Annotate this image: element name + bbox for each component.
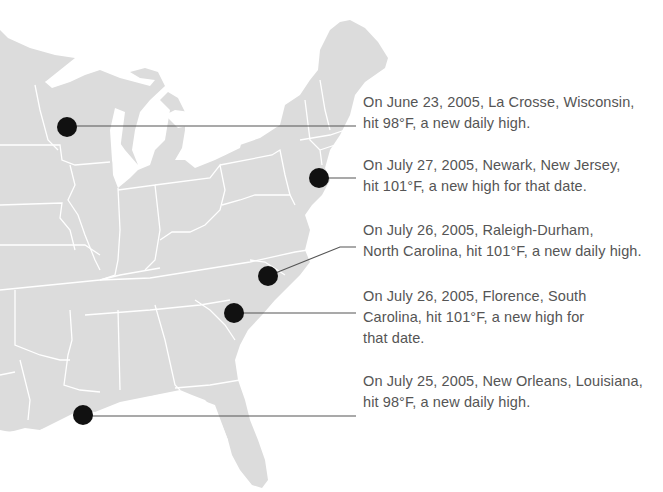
marker-lacrosse[interactable]	[57, 117, 77, 137]
callout-lacrosse: On June 23, 2005, La Crosse, Wisconsin, …	[363, 92, 634, 134]
callout-line: On July 25, 2005, New Orleans, Louisiana…	[363, 371, 643, 392]
callout-florence: On July 26, 2005, Florence, South Caroli…	[363, 286, 586, 349]
callout-neworleans: On July 25, 2005, New Orleans, Louisiana…	[363, 371, 643, 413]
callout-line: On July 27, 2005, Newark, New Jersey,	[363, 155, 620, 176]
callout-line: North Carolina, hit 101°F, a new daily h…	[363, 241, 642, 262]
callout-line: On July 26, 2005, Raleigh-Durham,	[363, 220, 642, 241]
marker-raleigh[interactable]	[258, 266, 278, 286]
callout-line: hit 98°F, a new daily high.	[363, 392, 643, 413]
callout-line: On June 23, 2005, La Crosse, Wisconsin,	[363, 92, 634, 113]
callout-line: that date.	[363, 328, 586, 349]
marker-florence[interactable]	[224, 303, 244, 323]
callout-line: hit 98°F, a new daily high.	[363, 113, 634, 134]
callout-line: On July 26, 2005, Florence, South	[363, 286, 586, 307]
callout-raleigh: On July 26, 2005, Raleigh-Durham, North …	[363, 220, 642, 262]
callout-newark: On July 27, 2005, Newark, New Jersey, hi…	[363, 155, 620, 197]
callout-line: Carolina, hit 101°F, a new high for	[363, 307, 586, 328]
marker-neworleans[interactable]	[73, 405, 93, 425]
callout-line: hit 101°F, a new high for that date.	[363, 176, 620, 197]
marker-newark[interactable]	[309, 168, 329, 188]
